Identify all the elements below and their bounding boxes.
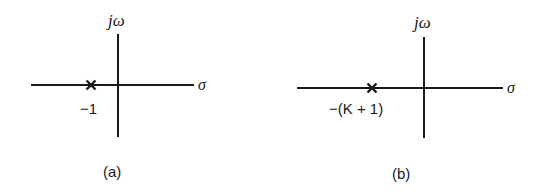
real-axis <box>31 84 194 86</box>
imaginary-axis <box>423 37 425 138</box>
imaginary-axis <box>117 34 119 137</box>
real-axis-label: σ <box>198 77 206 93</box>
real-axis-label: σ <box>507 80 515 96</box>
diagram-caption: (b) <box>392 166 410 181</box>
pole-value-label: −(K + 1) <box>329 101 383 116</box>
pole-value-label: −1 <box>80 101 97 116</box>
real-axis <box>297 87 503 89</box>
diagram-caption: (a) <box>103 164 121 179</box>
imaginary-axis-label: jω <box>414 14 431 31</box>
imaginary-axis-label: jω <box>108 12 125 29</box>
s-plane-diagram-a: jω σ −1 (a) <box>0 0 274 196</box>
s-plane-diagram-b: jω σ −(K + 1) (b) <box>274 0 549 196</box>
pole-x-icon <box>366 82 378 94</box>
pole-x-icon <box>85 79 97 91</box>
